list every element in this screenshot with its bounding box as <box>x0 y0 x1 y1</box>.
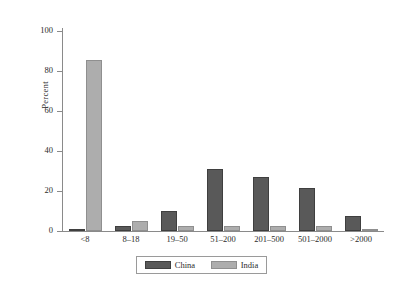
x-tick-label: 501–2000 <box>292 234 338 244</box>
bar-china <box>345 216 361 231</box>
bar-group <box>338 31 384 231</box>
x-axis-line <box>62 231 384 232</box>
y-tick-label: 40 <box>13 146 53 155</box>
legend-label-india: India <box>241 260 258 270</box>
x-axis-tick-labels: <88–1819–5051–200201–500501–2000>2000 <box>62 234 384 250</box>
bar-india <box>270 226 286 231</box>
x-tick-label: 8–18 <box>108 234 154 244</box>
bar-india <box>316 226 332 231</box>
plot-area: 020406080100 <box>62 31 384 231</box>
india-swatch-icon <box>211 261 237 269</box>
x-tick-label: 201–500 <box>246 234 292 244</box>
bar-china <box>161 211 177 231</box>
bar-china <box>115 226 131 231</box>
bar-group <box>108 31 154 231</box>
bar-china <box>207 169 223 231</box>
bar-china <box>253 177 269 231</box>
y-tick-label: 20 <box>13 186 53 195</box>
chart-legend: China India <box>136 256 267 274</box>
bar-group <box>62 31 108 231</box>
bar-india <box>132 221 148 231</box>
bar-china <box>299 188 315 231</box>
bar-india <box>178 226 194 231</box>
y-tick-label: 100 <box>13 26 53 35</box>
y-tick-label: 80 <box>13 66 53 75</box>
bar-group <box>154 31 200 231</box>
bar-india <box>86 60 102 231</box>
bar-india <box>362 229 378 231</box>
x-tick-label: <8 <box>62 234 108 244</box>
china-swatch-icon <box>145 261 171 269</box>
legend-entry-india: India <box>211 260 258 270</box>
bar-group <box>246 31 292 231</box>
bar-chart-figure: Percent 020406080100 <88–1819–5051–20020… <box>0 0 397 290</box>
y-tick-label: 60 <box>13 106 53 115</box>
legend-label-china: China <box>175 260 195 270</box>
legend-entry-china: China <box>145 260 195 270</box>
y-tick-label: 0 <box>13 226 53 235</box>
bar-india <box>224 226 240 231</box>
bar-china <box>69 229 85 231</box>
x-tick-label: >2000 <box>338 234 384 244</box>
bar-group <box>200 31 246 231</box>
x-tick-label: 51–200 <box>200 234 246 244</box>
bar-group <box>292 31 338 231</box>
bar-series-container <box>62 31 384 231</box>
y-tick-mark <box>57 231 62 232</box>
x-tick-label: 19–50 <box>154 234 200 244</box>
